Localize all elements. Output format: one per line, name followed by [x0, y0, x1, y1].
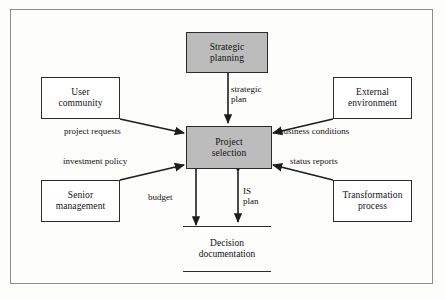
node-user-community-label: Usercommunity: [56, 87, 104, 109]
diagram-canvas: Strategicplanning Usercommunity External…: [0, 0, 445, 300]
node-project-selection-label: Projectselection: [210, 137, 249, 159]
node-external-environment-label: Externalenvironment: [346, 87, 399, 109]
node-transformation-process[interactable]: Transformationprocess: [333, 180, 412, 222]
edge-label-project-requests: project requests: [64, 126, 121, 136]
node-strategic-planning[interactable]: Strategicplanning: [186, 32, 268, 73]
node-external-environment[interactable]: Externalenvironment: [333, 77, 412, 119]
edge-label-investment-policy: investment policy: [63, 156, 127, 166]
node-senior-management-label: Seniormanagement: [54, 190, 108, 212]
node-user-community[interactable]: Usercommunity: [41, 77, 120, 119]
edge-label-is-plan: ISplan: [243, 186, 259, 206]
node-senior-management[interactable]: Seniormanagement: [41, 180, 120, 222]
edge-label-strategic-plan: strategicplan: [231, 84, 262, 104]
node-project-selection[interactable]: Projectselection: [186, 126, 272, 169]
edge-label-budget: budget: [148, 192, 173, 202]
node-decision-documentation-label: Decisiondocumentation: [199, 238, 255, 260]
node-strategic-planning-label: Strategicplanning: [208, 42, 247, 64]
node-transformation-process-label: Transformationprocess: [340, 190, 404, 212]
node-decision-documentation[interactable]: Decisiondocumentation: [183, 226, 271, 272]
edge-label-business-conditions: business conditions: [279, 126, 349, 136]
edge-label-status-reports: status reports: [290, 156, 338, 166]
